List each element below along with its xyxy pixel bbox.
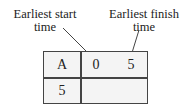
earliest-finish-cell: 5 bbox=[121, 58, 141, 72]
earliest-start-cell: 0 bbox=[86, 58, 106, 72]
node-horizontal-divider bbox=[44, 77, 147, 79]
activity-duration-cell: 5 bbox=[44, 84, 80, 98]
activity-node: A 5 0 5 bbox=[43, 51, 148, 104]
activity-name-cell: A bbox=[44, 58, 80, 72]
